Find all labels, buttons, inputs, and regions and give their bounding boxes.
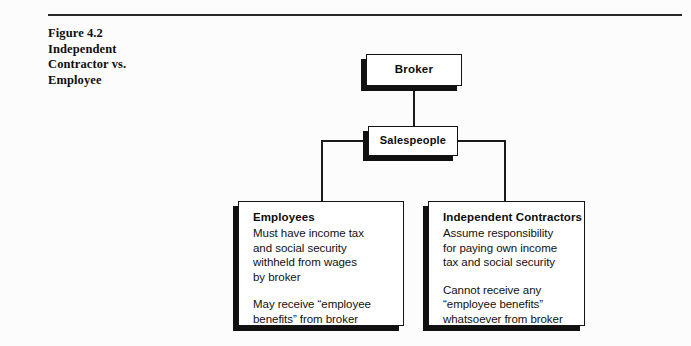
org-chart-diagram: Broker Salespeople Employees Must have i… bbox=[0, 0, 691, 346]
node-independent-contractors[interactable]: Independent Contractors Assume responsib… bbox=[428, 201, 585, 326]
employees-p1-line-2: and social security bbox=[253, 242, 347, 254]
contractors-p1-line-2: for paying own income bbox=[443, 242, 557, 254]
contractors-paragraph-2: Cannot receive any “employee benefits” w… bbox=[443, 283, 584, 327]
employees-paragraph-1: Must have income tax and social security… bbox=[253, 226, 403, 284]
edge-salespeople-right-horizontal bbox=[457, 140, 506, 142]
broker-title: Broker bbox=[367, 55, 461, 84]
contractors-paragraph-1: Assume responsibility for paying own inc… bbox=[443, 226, 584, 270]
edge-salespeople-left-vertical bbox=[321, 140, 323, 202]
contractors-p1-line-3: tax and social security bbox=[443, 256, 555, 268]
employees-p2-line-1: May receive “employee bbox=[253, 298, 371, 310]
contractors-p2-line-2: “employee benefits” bbox=[443, 298, 543, 310]
contractors-p2-line-1: Cannot receive any bbox=[443, 284, 541, 296]
node-salespeople[interactable]: Salespeople bbox=[368, 126, 458, 156]
salespeople-title: Salespeople bbox=[369, 127, 457, 154]
employees-p2-line-2: benefits” from broker bbox=[253, 313, 358, 325]
edge-salespeople-right-vertical bbox=[504, 140, 506, 202]
employees-p1-line-4: by broker bbox=[253, 271, 301, 283]
employees-p1-line-1: Must have income tax bbox=[253, 227, 364, 239]
employees-p1-line-3: withheld from wages bbox=[253, 256, 357, 268]
contractors-title: Independent Contractors bbox=[443, 211, 584, 223]
contractors-p1-line-1: Assume responsibility bbox=[443, 227, 553, 239]
edge-broker-salespeople bbox=[413, 86, 415, 126]
contractors-p2-line-3: whatsoever from broker bbox=[443, 313, 563, 325]
employees-title: Employees bbox=[253, 211, 403, 223]
node-employees[interactable]: Employees Must have income tax and socia… bbox=[238, 201, 404, 326]
edge-salespeople-left-horizontal bbox=[321, 140, 369, 142]
employees-paragraph-2: May receive “employee benefits” from bro… bbox=[253, 297, 403, 326]
figure-page: Figure 4.2 Independent Contractor vs. Em… bbox=[0, 0, 691, 346]
node-broker[interactable]: Broker bbox=[366, 54, 462, 86]
